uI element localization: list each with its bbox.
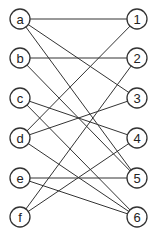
node-6: 6 [127,207,147,227]
node-a: a [10,9,30,29]
node-label: 3 [133,91,140,106]
node-e: e [10,168,30,188]
edge-f-2 [20,58,137,217]
node-1: 1 [127,9,147,29]
node-label: b [16,51,23,66]
edge-c-6 [20,98,137,217]
edges-layer [20,19,137,217]
node-5: 5 [127,168,147,188]
node-f: f [10,207,30,227]
node-3: 3 [127,88,147,108]
node-label: f [18,210,22,225]
node-label: a [16,12,24,27]
bipartite-graph: 123456abcdef [0,0,156,238]
edge-a-5 [20,19,137,178]
node-label: 2 [133,51,140,66]
edge-d-1 [20,19,137,138]
node-label: 6 [133,210,140,225]
node-label: e [16,171,23,186]
node-label: 4 [133,131,140,146]
node-label: d [16,131,23,146]
node-c: c [10,88,30,108]
node-2: 2 [127,48,147,68]
node-b: b [10,48,30,68]
node-4: 4 [127,128,147,148]
node-label: c [17,91,24,106]
node-d: d [10,128,30,148]
node-label: 5 [133,171,140,186]
node-label: 1 [133,12,140,27]
edge-e-6 [20,178,137,217]
